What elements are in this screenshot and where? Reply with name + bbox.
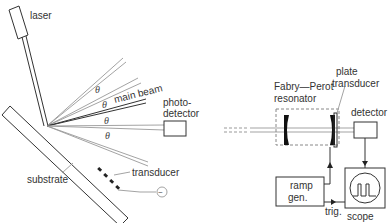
arrow-right-icon	[331, 199, 336, 205]
mirror-left	[284, 115, 289, 145]
detector-label: detector	[351, 107, 388, 118]
diagram-canvas: θ θ θ θ laser main beam photo- detector …	[0, 0, 388, 223]
arrow-down-icon	[362, 161, 368, 166]
arrow-up-icon	[327, 162, 333, 168]
ramp-label-1: ramp	[290, 180, 313, 191]
plate-label-1: plate	[336, 66, 358, 77]
fabry-perot-label-1: Fabry—Perot	[274, 81, 334, 92]
theta-label: θ	[95, 84, 100, 95]
scope	[345, 168, 385, 208]
substrate-label: substrate	[27, 174, 69, 185]
scope-waveform-icon	[353, 184, 376, 196]
ramp-label-2: gen.	[288, 192, 307, 203]
photodetector-label-2: detector	[163, 108, 200, 119]
trig-label: trig.	[325, 206, 342, 217]
photodetector-label-1: photo-	[163, 97, 191, 108]
ac-source-symbol: ~	[158, 188, 163, 197]
transducer-leader	[114, 172, 130, 175]
laser-beam	[22, 36, 48, 126]
plate-transducer	[334, 113, 337, 147]
theta-label: θ	[105, 130, 110, 141]
fabry-perot-label-2: resonator	[274, 93, 317, 104]
transducer-label: transducer	[132, 167, 180, 178]
plate-leader	[337, 86, 345, 113]
scope-label: scope	[347, 211, 374, 222]
photodetector	[164, 121, 186, 136]
theta-label: θ	[104, 115, 109, 126]
laser-label: laser	[30, 10, 52, 21]
substrate-leader	[62, 163, 73, 173]
theta-label: θ	[102, 99, 107, 110]
transducer-pads	[97, 167, 120, 190]
plate-label-2: transducer	[332, 78, 380, 89]
detector	[354, 122, 377, 138]
scope-screen	[350, 173, 380, 203]
laser	[9, 6, 28, 39]
substrate	[2, 106, 128, 223]
ac-wire	[118, 190, 156, 192]
